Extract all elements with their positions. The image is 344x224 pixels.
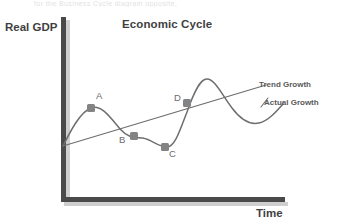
- x-axis-label: Time: [256, 208, 283, 220]
- chart-title: Economic Cycle: [122, 19, 212, 31]
- marker-point-c: [161, 143, 169, 151]
- y-axis-label: Real GDP: [5, 22, 57, 34]
- legend-label-trend-growth: Trend Growth: [259, 81, 311, 89]
- x-axis-shadow: [64, 202, 288, 206]
- economic-cycle-figure: for the Business Cycle diagram opposite,…: [0, 0, 344, 224]
- point-label-a: A: [96, 91, 102, 101]
- x-axis-line: [61, 197, 285, 202]
- y-axis-shadow: [66, 20, 70, 202]
- point-label-c: C: [169, 149, 176, 159]
- marker-point-d: [183, 99, 191, 107]
- chart-canvas: [0, 0, 344, 224]
- annotation-markers: [87, 99, 191, 151]
- point-label-b: B: [119, 135, 125, 145]
- point-label-d: D: [174, 93, 181, 103]
- trend-growth-line: [63, 85, 266, 146]
- marker-point-b: [130, 132, 138, 140]
- legend-label-actual-growth: Actual Growth: [264, 99, 319, 107]
- marker-point-a: [87, 104, 95, 112]
- y-axis-line: [61, 17, 66, 202]
- axes-group: [61, 17, 288, 206]
